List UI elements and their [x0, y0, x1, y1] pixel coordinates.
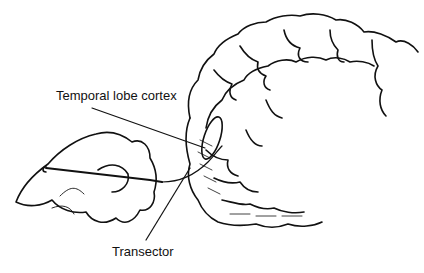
label-temporal-lobe-cortex: Temporal lobe cortex: [56, 88, 177, 103]
cortex-leader-line: [92, 108, 205, 148]
cortex-inner: [206, 57, 374, 128]
temporal-lobe-target: [198, 115, 227, 162]
brain-surgery-drawing: [0, 0, 424, 273]
brain-outline: [188, 14, 418, 118]
illustration: Temporal lobe cortex Transector: [0, 0, 424, 273]
label-transector: Transector: [112, 244, 174, 259]
transector-instrument: [46, 168, 162, 182]
